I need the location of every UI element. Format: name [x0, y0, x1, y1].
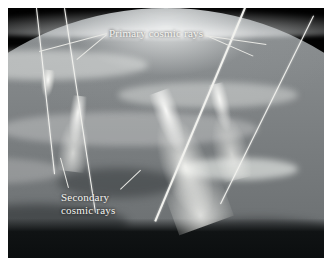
photograph: Primary cosmic rays Secondary cosmic ray… — [8, 8, 324, 258]
label-primary-cosmic-rays: Primary cosmic rays — [109, 27, 203, 40]
label-secondary-line-2: cosmic rays — [61, 204, 115, 217]
label-secondary-cosmic-rays: Secondary cosmic rays — [61, 191, 115, 216]
label-secondary-line-1: Secondary — [61, 191, 115, 204]
cosmic-ray-figure: Primary cosmic rays Secondary cosmic ray… — [0, 0, 332, 268]
